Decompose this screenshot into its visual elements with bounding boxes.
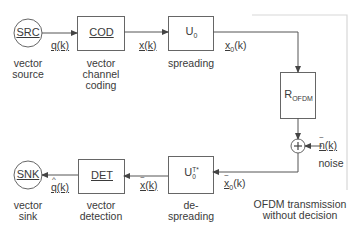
frame-caption-line2: without decision: [250, 210, 350, 221]
signal-x: x(k): [139, 40, 157, 51]
channel-label-sub: OFDM: [292, 95, 313, 102]
frame-caption: OFDM transmission without decision: [250, 199, 350, 221]
source-caption: vector source: [8, 58, 48, 80]
hat-mark: ^: [52, 174, 56, 185]
despreader-label: UT*0: [169, 164, 214, 180]
sink-caption: vector sink: [8, 200, 48, 222]
spreader-caption: spreading: [164, 58, 218, 69]
spreader-label-main: U: [186, 25, 194, 37]
source-label: SRC: [14, 26, 42, 38]
spreader-label-sub: 0: [194, 32, 198, 39]
spreader-label: U0: [169, 25, 214, 39]
tilde-mark: ~: [224, 170, 229, 181]
coder-caption-line3: coding: [75, 80, 127, 91]
sink-label: SNK: [14, 168, 42, 180]
coder-label: COD: [78, 26, 125, 38]
channel-label: ROFDM: [281, 88, 316, 102]
signal-x0-arg: (k): [234, 39, 246, 51]
detector-label: DET: [79, 169, 125, 181]
signal-noise: ~n(k): [319, 140, 337, 151]
despreader-label-sub: 0: [192, 173, 199, 180]
coder-caption: vector channel coding: [75, 58, 127, 91]
noise-caption: noise: [314, 158, 348, 169]
signal-x-tilde: ~x(k): [140, 180, 158, 191]
channel-label-main: R: [284, 88, 292, 100]
signal-x0: x0(k): [225, 40, 246, 55]
despreader-label-sup: T*: [192, 166, 199, 173]
source-caption-line2: source: [8, 69, 48, 80]
signal-q-hat: ^q(k): [51, 182, 69, 193]
despreader-caption-line2: spreading: [164, 211, 218, 222]
signal-x0-tilde: ~x0(k): [224, 178, 245, 193]
tilde-mark: ~: [140, 172, 145, 183]
despreader-caption: de- spreading: [164, 200, 218, 222]
signal-x0-tilde-arg: (k): [233, 177, 245, 189]
detector-caption: vector detection: [72, 200, 130, 222]
despreader-label-main: U: [184, 166, 192, 178]
sink-caption-line2: sink: [8, 211, 48, 222]
detector-caption-line2: detection: [72, 211, 130, 222]
signal-q: q(k): [51, 40, 69, 51]
tilde-mark: ~: [319, 132, 324, 143]
signal-x-text: x(k): [139, 39, 157, 51]
signal-q-text: q(k): [51, 39, 69, 51]
